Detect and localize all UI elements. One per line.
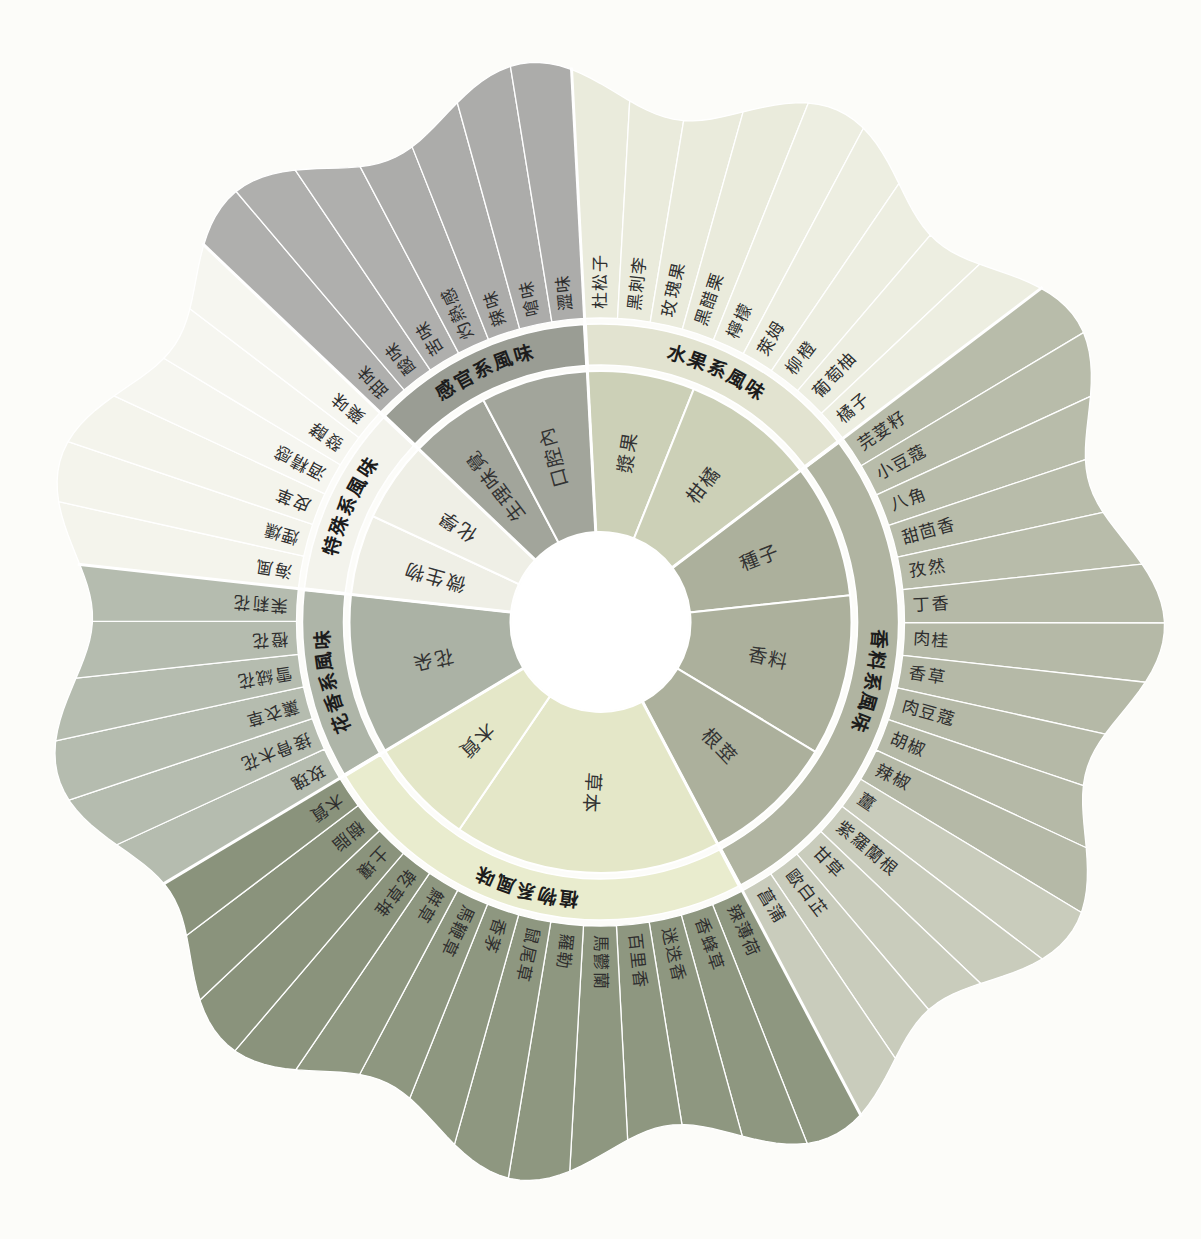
item-label: 馬鬱蘭 (591, 935, 611, 991)
item-label: 丁香 (912, 593, 950, 615)
item-label: 茉莉花 (232, 592, 289, 615)
item-label: 橙花 (251, 629, 289, 651)
center-hub (512, 533, 690, 711)
subcategory-label: 草本 (580, 772, 604, 815)
item-label: 羅勒 (553, 932, 577, 971)
item-label: 澀味 (552, 273, 576, 312)
item-label: 肉桂 (913, 629, 951, 651)
flavor-wheel-stage: 水果系風味漿果杜松子黑刺李玫瑰果黑醋栗柑橘檸檬萊姆柳橙葡萄柚橘子香料系風味種子芫… (0, 0, 1201, 1239)
flavor-wheel: 水果系風味漿果杜松子黑刺李玫瑰果黑醋栗柑橘檸檬萊姆柳橙葡萄柚橘子香料系風味種子芫… (0, 0, 1201, 1239)
item-label: 杜松子 (590, 253, 610, 309)
